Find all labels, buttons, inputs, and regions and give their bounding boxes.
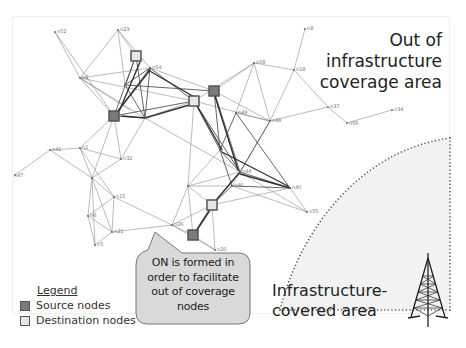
callout-line: order to facilitate [137, 271, 249, 286]
node-label: n55 [309, 208, 319, 214]
label-line: covered area [272, 301, 387, 321]
legend-item-destination: Destination nodes [20, 313, 136, 328]
label-line: coverage area [320, 72, 442, 93]
node-label: n21 [114, 228, 124, 234]
node-label: n26 [174, 221, 184, 227]
destination-node [207, 200, 217, 210]
callout-line: out of coverage [137, 285, 249, 300]
covered-area-label: Infrastructure- covered area [272, 281, 387, 321]
destination-node [131, 51, 141, 61]
out-of-coverage-label: Out of infrastructure coverage area [320, 30, 442, 93]
node-label: n49 [238, 109, 248, 115]
node-label: n8 [307, 25, 313, 31]
node-label: n58 [256, 59, 266, 65]
legend: Legend Source nodes Destination nodes [20, 284, 136, 328]
node-label: n54 [152, 64, 162, 70]
legend-label: Source nodes [36, 298, 110, 313]
legend-title: Legend [37, 284, 136, 298]
node-label: n44 [242, 168, 252, 174]
diagram-canvas: n52 n23 n2 n54 n58 n8 n18 n37 n34 n56 n4… [0, 0, 466, 348]
node-label: n20 [217, 246, 227, 252]
node-label: n34 [394, 106, 404, 112]
source-node [188, 230, 198, 240]
node-label: n18 [296, 66, 306, 72]
node-label: n48 [272, 117, 282, 123]
source-node [209, 86, 219, 96]
destination-swatch-icon [20, 316, 30, 326]
node-label: n23 [120, 26, 130, 32]
node-label: n41 [52, 146, 62, 152]
node-label: n37 [330, 103, 340, 109]
legend-item-source: Source nodes [20, 298, 136, 313]
node-label: n47 [14, 172, 24, 178]
destination-node [189, 96, 199, 106]
node-label: n1 [82, 144, 88, 150]
label-line: infrastructure [320, 51, 442, 72]
node-label: n56 [349, 120, 359, 126]
label-line: Out of [320, 30, 442, 51]
node-label: n5 [97, 241, 103, 247]
legend-label: Destination nodes [36, 313, 136, 328]
callout-text: ON is formed in order to facilitate out … [137, 256, 249, 314]
label-line: Infrastructure- [272, 281, 387, 301]
node-label: n40 [292, 184, 302, 190]
source-swatch-icon [20, 301, 30, 311]
callout-line: ON is formed in [137, 256, 249, 271]
source-node [109, 111, 119, 121]
node-label: n52 [57, 28, 67, 34]
node-label: n6 [90, 212, 96, 218]
node-label: n2 [82, 74, 88, 80]
source-nodes [109, 86, 219, 240]
node-label: n32 [123, 155, 133, 161]
node-label: n15 [116, 193, 126, 199]
node-label: n46 [234, 182, 244, 188]
callout-line: nodes [137, 300, 249, 315]
